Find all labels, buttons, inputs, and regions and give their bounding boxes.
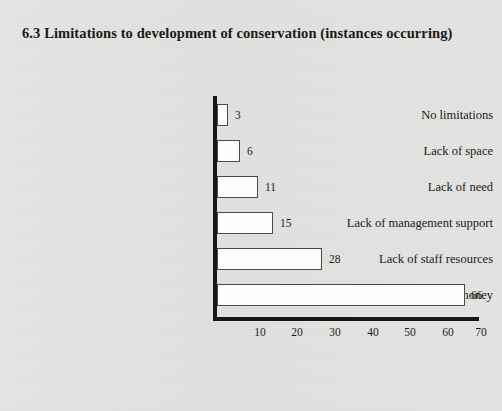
bar-row: Lack of money 66	[0, 277, 502, 313]
bar-row: Lack of staff resources 28	[0, 241, 502, 277]
x-axis-tick-label: 40	[367, 326, 379, 338]
x-axis-tick-label: 10	[254, 326, 266, 338]
x-axis-tick-label: 70	[475, 326, 487, 338]
category-label: Lack of management support	[302, 216, 502, 231]
x-axis-tick-label: 60	[442, 326, 454, 338]
bar	[217, 284, 465, 306]
x-axis-line	[213, 317, 479, 321]
bar-row: No limitations 3	[0, 97, 502, 133]
x-axis-tick-label: 50	[404, 326, 416, 338]
bar-row: Lack of need 11	[0, 169, 502, 205]
bar-value-label: 28	[329, 253, 341, 265]
x-axis-tick-label: 20	[291, 326, 303, 338]
x-axis-tick-label: 30	[329, 326, 341, 338]
bar-value-label: 6	[247, 145, 253, 157]
bar-row: Lack of management support 15	[0, 205, 502, 241]
bar	[217, 248, 322, 270]
bar-chart-plot: No limitations 3 Lack of space 6 Lack of…	[0, 0, 502, 411]
bar-value-label: 66	[471, 289, 483, 301]
category-label: Lack of need	[302, 180, 502, 195]
bar	[217, 212, 273, 234]
bar-value-label: 3	[235, 109, 241, 121]
bar	[217, 176, 258, 198]
bar	[217, 140, 240, 162]
bar	[217, 104, 228, 126]
category-label: No limitations	[302, 108, 502, 123]
category-label: Lack of space	[302, 144, 502, 159]
bar-value-label: 15	[280, 217, 292, 229]
bar-row: Lack of space 6	[0, 133, 502, 169]
bar-value-label: 11	[265, 181, 276, 193]
